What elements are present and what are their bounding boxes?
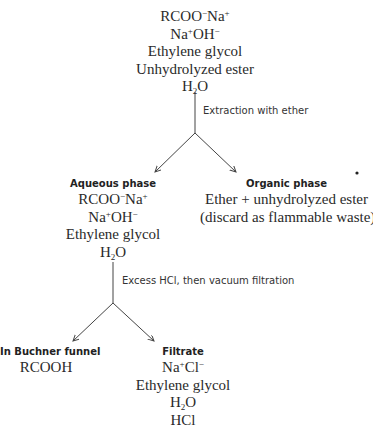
formula-line: Na+OH− [48,209,178,227]
formula-line: Ether + unhydrolyzed ester [200,191,373,209]
formula-line: Na+Cl− [128,359,238,377]
formula-line: HCl [128,412,238,430]
aqueous-phase: Aqueous phase RCOO−Na+ Na+OH− Ethylene g… [48,177,178,261]
filtrate-header: Filtrate [128,345,238,359]
formula-line: RCOO−Na+ [48,191,178,209]
step1-label: Extraction with ether [203,105,308,116]
formula-line: Ethylene glycol [48,226,178,244]
formula-line: H2O [120,78,270,96]
organic-phase-header: Organic phase [200,177,373,191]
formula-line: Unhydrolyzed ester [120,61,270,79]
start-mixture: RCOO−Na+ Na+OH− Ethylene glycol Unhydrol… [120,8,270,96]
formula-line: H2O [128,394,238,412]
organic-phase: Organic phase Ether + unhydrolyzed ester… [200,177,373,226]
step2-label: Excess HCl, then vacuum filtration [122,275,294,286]
buchner-funnel-header: In Buchner funnel [0,345,92,359]
arrow-to-aqueous [155,133,195,172]
formula-line: Ethylene glycol [128,377,238,395]
arrow-to-organic [195,133,236,172]
aqueous-phase-header: Aqueous phase [48,177,178,191]
formula-line: Na+OH− [120,26,270,44]
filtrate: Filtrate Na+Cl− Ethylene glycol H2O HCl [128,345,238,429]
arrow-to-buchner [73,303,113,341]
formula-line: Ethylene glycol [120,43,270,61]
formula-line: (discard as flammable waste) [200,209,373,227]
formula-line: RCOOH [0,359,92,377]
formula-line: H2O [48,244,178,262]
stray-dot [355,171,358,174]
formula-line: RCOO−Na+ [120,8,270,26]
buchner-funnel: In Buchner funnel RCOOH [0,345,92,377]
arrow-to-filtrate [113,303,154,341]
